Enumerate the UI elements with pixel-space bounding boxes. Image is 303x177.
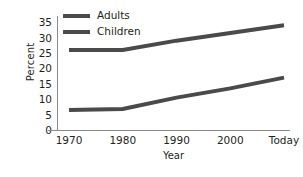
x-tick-label: 1980 [97,134,149,147]
legend-label: Children [97,26,141,37]
legend-item-children: Children [63,24,193,39]
legend-swatch-icon [63,14,90,18]
y-tick-label: 35 [24,17,52,27]
y-tick-label: 25 [24,48,52,58]
y-tick-label: 15 [24,79,52,89]
legend-swatch-icon [63,30,90,34]
x-tick-label: Today [258,134,303,147]
legend-item-adults: Adults [63,8,193,23]
line-chart: Percent 05101520253035 1970198019902000T… [0,0,303,177]
x-tick-label: 1970 [43,134,95,147]
y-tick-label: 10 [24,94,52,104]
x-tick-label: 2000 [204,134,256,147]
y-axis-tick-labels: 05101520253035 [24,24,52,132]
y-tick-label: 30 [24,33,52,43]
series-line-children [69,78,284,110]
x-axis-tick-labels: 1970198019902000Today [57,134,290,150]
legend-label: Adults [97,10,130,21]
y-tick-label: 20 [24,63,52,73]
chart-legend: Adults Children [63,8,193,40]
x-axis-line [48,130,290,131]
x-axis-title: Year [57,150,290,161]
x-tick-label: 1990 [151,134,203,147]
y-tick-label: 5 [24,110,52,120]
